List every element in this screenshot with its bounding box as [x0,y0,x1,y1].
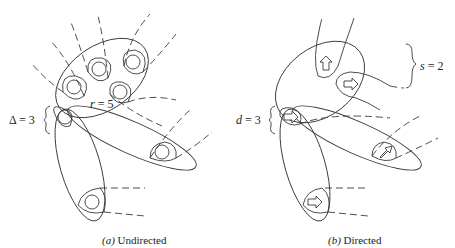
delta-label: Δ = 3 [9,113,35,127]
caption-undirected: (a) Undirected [102,234,167,247]
panel-directed: d = 3 s = 2 (b) Directed [236,18,443,247]
hyperedge-long [287,95,428,181]
node [113,85,127,99]
d-label: d = 3 [236,113,261,127]
panel-undirected: Δ = 3 r = 5 (a) Undirected [9,14,212,247]
node [85,195,99,209]
hyperedge-r5 [41,22,163,134]
node [67,80,81,94]
arrow-right-icon [344,78,358,90]
brace [269,106,275,134]
arrow-up-icon [320,56,332,70]
brace [44,106,50,134]
arrow-right-icon [308,196,322,208]
hypergraph-figure: Δ = 3 r = 5 (a) Undirected d [0,0,455,248]
hyperedge-long [62,95,203,181]
brace [406,44,416,88]
arrow-right-icon [284,111,298,123]
node [126,55,140,69]
r-label: r = 5 [90,97,113,111]
arrow-diagonal-icon [380,146,392,158]
hyperedge-big [260,24,381,139]
node [92,62,106,76]
caption-directed: (b) Directed [328,234,382,247]
s-label: s = 2 [420,59,443,73]
